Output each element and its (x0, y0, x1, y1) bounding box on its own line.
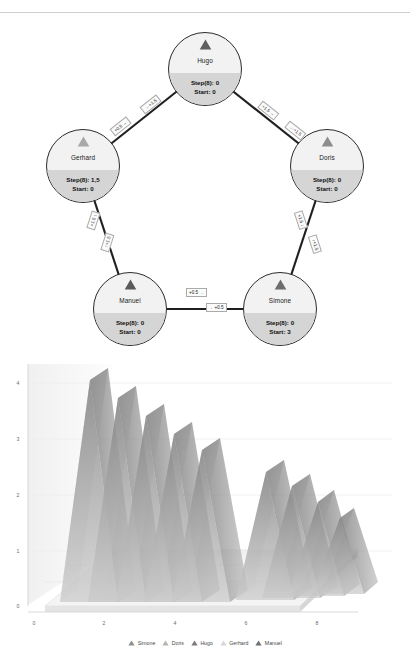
chart-ytick: 1 (17, 548, 20, 554)
edge-label-value: +1.5 (104, 236, 112, 246)
triangle-marker-icon (77, 136, 90, 147)
triangle-marker-icon (199, 39, 212, 50)
edge-label-value: +1.5 (89, 217, 97, 227)
chart-xtick: 0 (33, 620, 36, 626)
chart-ytick: 3 (17, 436, 20, 442)
chart-xtick: 2 (103, 620, 106, 626)
triangle-marker-icon (321, 136, 334, 147)
node-step-manuel: Step(8): 0 (93, 319, 167, 328)
legend-item-doris[interactable]: Doris (162, 640, 184, 646)
edge-label-simone-manuel[interactable]: ←+0.5 (206, 303, 227, 312)
graph-node-gerhard[interactable]: Gerhard Step(8): 1,5 Start: 0 (46, 129, 120, 203)
edge-label-manuel-simone[interactable]: +0.5→ (186, 288, 207, 297)
node-label-simone: Simone (269, 298, 291, 304)
graph-node-simone[interactable]: Simone Step(8): 0 Start: 3 (243, 272, 317, 346)
triangle-marker-icon (274, 279, 287, 290)
legend-item-hugo[interactable]: Hugo (191, 640, 213, 646)
chart-y-ticks: 4 3 2 1 0 (17, 380, 20, 609)
triangle-marker-icon (255, 640, 262, 646)
triangle-marker-icon (220, 640, 227, 646)
legend-item-manuel[interactable]: Manuel (255, 640, 282, 646)
legend-item-simone[interactable]: Simone (128, 640, 155, 646)
node-step-gerhard: Step(8): 1,5 (46, 176, 120, 185)
node-stats-doris: Step(8): 0 Start: 0 (290, 176, 364, 194)
graph-node-hugo[interactable]: Hugo Step(8): 0 Start: 0 (168, 32, 242, 106)
page-header-strip (0, 0, 410, 14)
node-start-hugo: Start: 0 (168, 88, 242, 97)
triangle-marker-icon (124, 279, 137, 290)
node-start-gerhard: Start: 0 (46, 185, 120, 194)
legend-item-gerhard[interactable]: Gerhard (220, 640, 249, 646)
edge-arrow-icon: → (199, 290, 204, 295)
node-stats-hugo: Step(8): 0 Start: 0 (168, 79, 242, 97)
chart-xtick: 6 (245, 620, 248, 626)
node-label-doris: Doris (319, 155, 334, 161)
triangle-marker-icon (128, 640, 135, 646)
node-stats-manuel: Step(8): 0 Start: 0 (93, 319, 167, 337)
ribbon-chart-panel: 4 3 2 1 0 0 2 4 6 8 Simone (0, 350, 410, 660)
chart-ytick: 0 (17, 603, 20, 609)
edge-arrow-icon: → (269, 110, 276, 117)
legend-label: Simone (138, 640, 156, 646)
triangle-marker-icon (162, 640, 169, 646)
edge-label-value: +1.5 (312, 241, 320, 251)
edge-label-value: +1.5 (297, 214, 305, 224)
legend-label: Hugo (200, 640, 212, 646)
chart-x-ticks: 0 2 4 6 8 (33, 620, 319, 626)
chart-ytick: 4 (17, 380, 20, 386)
chart-series-group (60, 368, 378, 602)
node-stats-simone: Step(8): 0 Start: 3 (243, 319, 317, 337)
chart-xtick: 4 (174, 620, 177, 626)
legend-label: Doris (172, 640, 184, 646)
header-divider (0, 12, 410, 13)
node-label-manuel: Manuel (119, 298, 141, 304)
graph-node-manuel[interactable]: Manuel Step(8): 0 Start: 0 (93, 272, 167, 346)
network-graph-panel: Hugo Step(8): 0 Start: 0 Doris Step(8): … (0, 14, 410, 350)
chart-ytick: 2 (17, 492, 20, 498)
node-label-gerhard: Gerhard (71, 155, 95, 161)
legend-label: Manuel (265, 640, 282, 646)
chart-xtick: 8 (316, 620, 319, 626)
node-step-simone: Step(8): 0 (243, 319, 317, 328)
node-label-hugo: Hugo (197, 58, 213, 64)
node-stats-gerhard: Step(8): 1,5 Start: 0 (46, 176, 120, 194)
node-step-hugo: Step(8): 0 (168, 79, 242, 88)
edge-label-value: +0.5 (189, 290, 198, 295)
edge-label-value: +0.5 (215, 305, 224, 310)
node-start-doris: Start: 0 (290, 185, 364, 194)
legend-label: Gerhard (229, 640, 248, 646)
chart-legend: Simone Doris Hugo Gerhard (0, 640, 410, 646)
node-start-manuel: Start: 0 (93, 328, 167, 337)
triangle-marker-icon (191, 640, 198, 646)
chart-canvas[interactable]: 4 3 2 1 0 0 2 4 6 8 (0, 350, 410, 660)
node-start-simone: Start: 3 (243, 328, 317, 337)
graph-node-doris[interactable]: Doris Step(8): 0 Start: 0 (290, 129, 364, 203)
screenshot-root: Hugo Step(8): 0 Start: 0 Doris Step(8): … (0, 0, 410, 660)
edge-arrow-icon: ↓ (300, 223, 305, 227)
node-step-doris: Step(8): 0 (290, 176, 364, 185)
